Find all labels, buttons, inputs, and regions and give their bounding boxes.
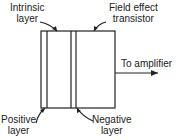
detector-diagram: Intrinsic layer Field effect transistor … bbox=[0, 0, 177, 140]
label-line: transistor bbox=[109, 13, 158, 24]
positive-layer-label: Positive layer bbox=[1, 114, 36, 136]
label-line: layer bbox=[92, 125, 131, 136]
label-line: Positive bbox=[1, 114, 36, 125]
label-line: layer bbox=[10, 13, 44, 24]
label-line: Negative bbox=[92, 114, 131, 125]
label-line: Field effect bbox=[109, 2, 158, 13]
fet-leader bbox=[94, 22, 106, 31]
intrinsic-layer-label: Intrinsic layer bbox=[10, 2, 44, 24]
label-line: Intrinsic bbox=[10, 2, 44, 13]
negative-layer-label: Negative layer bbox=[92, 114, 131, 136]
fet-label: Field effect transistor bbox=[109, 2, 158, 24]
arrow-head-icon bbox=[151, 70, 158, 76]
fet-box bbox=[41, 31, 115, 108]
amplifier-label: To amplifier bbox=[121, 58, 172, 69]
label-line: layer bbox=[1, 125, 36, 136]
